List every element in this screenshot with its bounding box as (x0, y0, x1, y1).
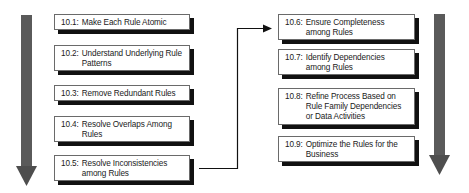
right-flow-arrow-icon (429, 14, 450, 175)
step-number: 10.9: (285, 140, 303, 160)
step-label: Identify Dependencies among Rules (306, 53, 408, 73)
step-label: Refine Process Based on Rule Family Depe… (306, 92, 408, 122)
step-number: 10.2: (61, 49, 79, 69)
left-flow-arrow-icon (16, 15, 37, 186)
step-10-5: 10.5:Resolve Inconsistencies among Rules (54, 155, 190, 181)
step-number: 10.5: (61, 159, 79, 179)
step-label: Understand Underlying Rule Patterns (82, 49, 183, 69)
step-number: 10.4: (61, 120, 79, 140)
step-label: Optimize the Rules for the Business (306, 140, 408, 160)
step-10-9: 10.9:Optimize the Rules for the Business (278, 136, 415, 162)
step-10-8: 10.8:Refine Process Based on Rule Family… (278, 88, 415, 125)
step-label: Ensure Completeness among Rules (306, 18, 408, 38)
step-number: 10.6: (285, 18, 303, 38)
step-10-6: 10.6:Ensure Completeness among Rules (278, 14, 415, 40)
step-label: Resolve Inconsistencies among Rules (82, 159, 183, 179)
step-10-3: 10.3:Remove Redundant Rules (54, 85, 190, 101)
step-number: 10.7: (285, 53, 303, 73)
step-label: Resolve Overlaps Among Rules (82, 120, 183, 140)
step-10-2: 10.2:Understand Underlying Rule Patterns (54, 45, 190, 71)
step-label: Remove Redundant Rules (82, 89, 183, 99)
step-number: 10.8: (285, 92, 303, 122)
step-number: 10.1: (61, 18, 79, 28)
connector-arrow-icon (199, 25, 272, 169)
step-10-1: 10.1:Make Each Rule Atomic (54, 14, 190, 30)
step-label: Make Each Rule Atomic (82, 18, 183, 28)
step-number: 10.3: (61, 89, 79, 99)
step-10-7: 10.7:Identify Dependencies among Rules (278, 49, 415, 75)
step-10-4: 10.4:Resolve Overlaps Among Rules (54, 116, 190, 142)
